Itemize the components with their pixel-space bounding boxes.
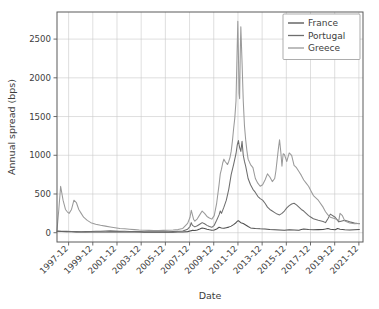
chart-figure: 050010001500200025001997-121999-122001-1…	[0, 0, 379, 309]
legend-label-greece: Greece	[308, 43, 340, 53]
y-axis: 05001000150020002500	[29, 34, 57, 238]
x-axis-title: Date	[199, 290, 222, 301]
y-tick-label: 1000	[29, 150, 51, 160]
y-tick-label: 2500	[29, 34, 51, 44]
legend-label-portugal: Portugal	[308, 31, 345, 41]
legend[interactable]: FrancePortugalGreece	[283, 14, 360, 60]
legend-label-france: France	[308, 18, 338, 28]
y-tick-label: 1500	[29, 112, 51, 122]
series-line-portugal	[57, 141, 359, 232]
x-axis: 1997-121999-122001-122003-122005-122007-…	[38, 242, 361, 276]
y-tick-label: 0	[46, 228, 51, 238]
y-tick-label: 2000	[29, 73, 51, 83]
y-tick-label: 500	[35, 189, 51, 199]
line-chart-svg: 050010001500200025001997-121999-122001-1…	[0, 0, 379, 309]
y-axis-title: Annual spread (bps)	[6, 79, 17, 175]
